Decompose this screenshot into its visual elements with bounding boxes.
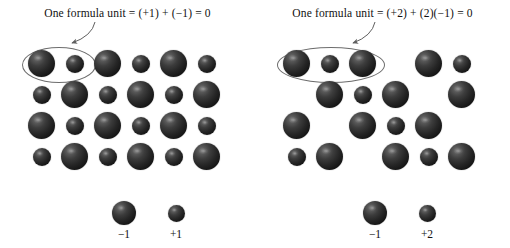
legend-label-cation: +2 [407,228,447,240]
lattice-sphere-small [198,117,216,135]
lattice-sphere-small [33,86,51,104]
lattice-sphere-small [453,55,471,73]
lattice-sphere-large [349,112,376,139]
lattice-sphere-small [288,148,306,166]
lattice-sphere-small [321,55,339,73]
lattice-sphere-large [160,112,187,139]
lattice-sphere-large [382,143,409,170]
ionic-lattice-figure: One formula unit = (+1) + (−1) = 0 [0,0,510,248]
lattice-sphere-large [448,81,475,108]
legend-sphere-cation [419,205,436,222]
legend-label-anion: −1 [104,228,144,240]
lattice-sphere-large [316,81,343,108]
lattice-sphere-large [94,50,121,77]
lattice-sphere-large [448,143,475,170]
lattice-sphere-large [349,50,376,77]
lattice-sphere-small [99,86,117,104]
lattice-sphere-small [420,148,438,166]
lattice-sphere-small [132,117,150,135]
lattice-sphere-large [382,81,409,108]
lattice-sphere-small [165,86,183,104]
lattice-sphere-large [28,50,55,77]
legend-sphere-anion [363,201,387,225]
panel-left: One formula unit = (+1) + (−1) = 0 [0,0,255,248]
lattice-sphere-large [127,81,154,108]
legend-label-anion: −1 [355,228,395,240]
lattice-sphere-large [28,112,55,139]
panel-right: One formula unit = (+2) + (2)(−1) = 0 [255,0,510,248]
lattice-sphere-large [160,50,187,77]
lattice-sphere-small [387,117,405,135]
lattice-sphere-large [193,81,220,108]
lattice-sphere-large [127,143,154,170]
lattice-sphere-large [415,112,442,139]
lattice-sphere-large [316,143,343,170]
lattice-sphere-small [198,55,216,73]
lattice-sphere-large [94,112,121,139]
lattice-sphere-small [354,86,372,104]
legend-sphere-cation [168,205,185,222]
lattice-sphere-small [99,148,117,166]
legend-label-cation: +1 [156,228,196,240]
lattice-sphere-small [132,55,150,73]
lattice-sphere-large [283,50,310,77]
lattice-sphere-large [61,143,88,170]
lattice-sphere-large [283,112,310,139]
lattice-sphere-large [415,50,442,77]
lattice-sphere-small [165,148,183,166]
lattice-sphere-small [66,55,84,73]
lattice-sphere-small [33,148,51,166]
lattice-sphere-small [66,117,84,135]
lattice-sphere-large [61,81,88,108]
lattice-sphere-large [193,143,220,170]
legend-sphere-anion [112,201,136,225]
